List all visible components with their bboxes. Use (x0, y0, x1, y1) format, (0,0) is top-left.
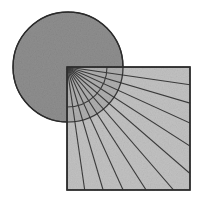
geometry-diagram (0, 0, 201, 201)
figure-canvas (0, 0, 201, 201)
